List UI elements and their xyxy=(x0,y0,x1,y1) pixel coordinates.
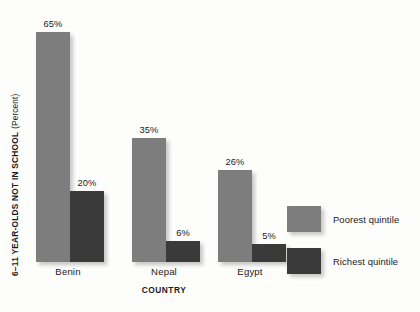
bar-rect xyxy=(132,138,166,262)
bar-group-egypt: 26% 5% xyxy=(218,14,286,262)
bar-rect xyxy=(36,32,70,262)
bar-value-label: 35% xyxy=(126,125,172,135)
legend-swatch-icon xyxy=(287,248,321,274)
legend-swatch-icon xyxy=(287,206,321,232)
bar-value-label: 65% xyxy=(30,19,76,29)
y-axis-title-main: 6–11 YEAR-OLDS NOT IN SCHOOL xyxy=(10,132,20,276)
x-tick-label-egypt: Egypt xyxy=(205,266,295,277)
bar-rect xyxy=(70,191,104,262)
bar-group-nepal: 35% 6% xyxy=(132,14,200,262)
bar-group-benin: 65% 20% xyxy=(36,14,104,262)
x-tick-label-nepal: Nepal xyxy=(119,266,209,277)
legend-label: Richest quintile xyxy=(333,256,398,267)
plot-area: 65% 20% 35% 6% 26% 5% xyxy=(34,14,284,262)
bar-value-label: 6% xyxy=(160,228,206,238)
legend-item-poorest: Poorest quintile xyxy=(287,204,399,234)
bar-rect xyxy=(252,244,286,262)
legend-item-richest: Richest quintile xyxy=(287,246,399,276)
bar-value-label: 26% xyxy=(212,157,258,167)
bar-rect xyxy=(166,241,200,262)
bar-value-label: 5% xyxy=(246,231,292,241)
x-tick-label-benin: Benin xyxy=(23,266,113,277)
bar-value-label: 20% xyxy=(64,178,110,188)
bar-rect xyxy=(218,170,252,262)
legend-label: Poorest quintile xyxy=(333,214,399,225)
x-axis-title: COUNTRY xyxy=(119,285,209,295)
legend: Poorest quintile Richest quintile xyxy=(287,204,399,288)
bar-chart: 6–11 YEAR-OLDS NOT IN SCHOOL (Percent) 6… xyxy=(0,0,420,312)
y-axis-title-unit: (Percent) xyxy=(10,94,20,129)
